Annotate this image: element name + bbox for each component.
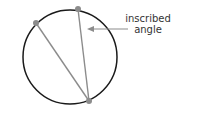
- point-vertex: [86, 98, 92, 104]
- label-line-2: angle: [124, 24, 172, 35]
- arrow-head-icon: [87, 26, 94, 32]
- point-top: [75, 6, 81, 12]
- inscribed-angle-diagram: inscribed angle: [0, 0, 199, 114]
- point-left: [33, 20, 39, 26]
- inscribed-angle-label: inscribed angle: [124, 13, 172, 35]
- label-line-1: inscribed: [124, 13, 172, 24]
